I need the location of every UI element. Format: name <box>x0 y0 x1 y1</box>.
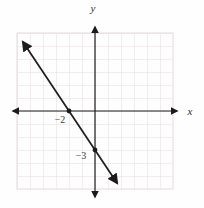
x-axis-label: x <box>187 105 193 117</box>
y-intercept-label: −3 <box>76 150 87 161</box>
x-intercept-label: −2 <box>55 114 66 125</box>
y-axis-label: y <box>90 2 96 14</box>
y-intercept-point <box>93 148 98 153</box>
coordinate-plane-figure: y x −2 −3 <box>0 0 204 208</box>
coordinate-plane-graph: y x −2 −3 <box>0 0 204 208</box>
x-intercept-point <box>67 109 72 114</box>
